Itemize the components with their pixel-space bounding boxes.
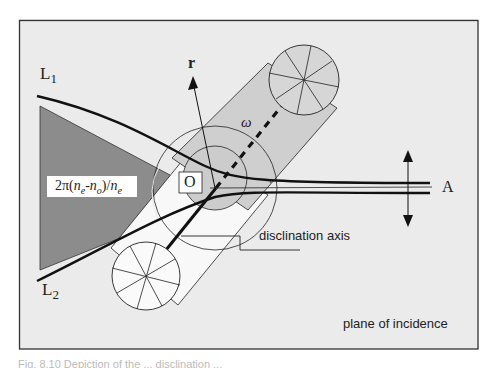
figure-caption-partial: Fig. 8.10 Depiction of the ... disclinat… bbox=[18, 358, 478, 368]
label-l1-text: L bbox=[40, 64, 50, 83]
label-analyzer: A bbox=[442, 178, 454, 196]
label-phase-formula: 2π(ne-no)/ne bbox=[55, 178, 122, 196]
label-l2-text: L bbox=[42, 280, 52, 299]
lower-director-circle bbox=[112, 242, 180, 310]
label-plane-of-incidence: plane of incidence bbox=[343, 316, 448, 331]
label-disclination-axis: disclination axis bbox=[259, 228, 350, 243]
label-l2-sub: 2 bbox=[52, 287, 59, 302]
label-l1: L1 bbox=[40, 64, 57, 84]
label-l2: L2 bbox=[42, 280, 59, 300]
upper-director-circle bbox=[269, 45, 339, 115]
label-l1-sub: 1 bbox=[50, 71, 57, 86]
label-r: r bbox=[188, 54, 195, 72]
label-omega: ω bbox=[241, 114, 252, 131]
label-origin: O bbox=[184, 173, 196, 191]
